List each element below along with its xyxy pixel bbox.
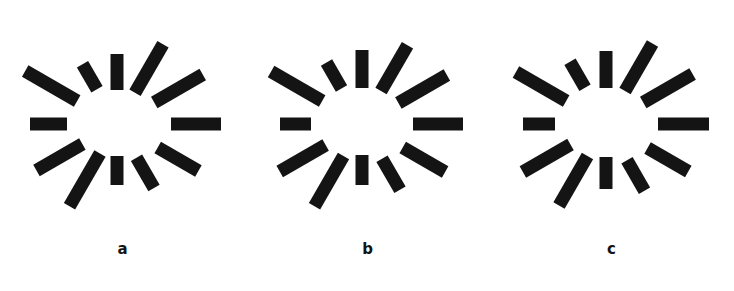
radial-bar <box>77 61 103 93</box>
radial-bars-c <box>489 0 734 245</box>
radial-bar <box>151 69 206 108</box>
radial-bars-b <box>245 0 490 245</box>
figure-panel-b: b <box>245 0 490 291</box>
radial-bar <box>564 58 590 90</box>
figure-caption-a: a <box>0 240 245 258</box>
radial-figures-sheet: abc <box>0 0 734 291</box>
radial-bar <box>600 51 613 88</box>
figure-caption-c: c <box>489 240 734 258</box>
radial-bar <box>111 156 124 185</box>
figure-panel-a: a <box>0 0 245 291</box>
figure-panel-c: c <box>489 0 734 291</box>
radial-bar <box>658 118 709 131</box>
radial-bar <box>64 150 106 209</box>
radial-bar <box>30 118 67 131</box>
radial-bar <box>513 66 570 106</box>
radial-bar <box>268 66 326 107</box>
radial-bars-a <box>0 0 245 245</box>
radial-bar <box>376 155 405 193</box>
radial-bar <box>644 142 691 177</box>
radial-bar <box>619 40 658 94</box>
radial-bar <box>520 139 574 178</box>
radial-bar <box>413 118 463 131</box>
figure-caption-b: b <box>245 240 490 258</box>
radial-bar <box>640 68 696 108</box>
radial-bar <box>111 54 124 90</box>
radial-bar <box>129 41 168 96</box>
radial-bar <box>399 142 448 178</box>
radial-bar <box>309 153 349 210</box>
radial-bar <box>171 118 221 131</box>
radial-bar <box>523 118 555 131</box>
radial-bar <box>375 42 413 94</box>
radial-bar <box>321 59 347 91</box>
radial-bar <box>356 155 369 185</box>
radial-bar <box>131 155 160 192</box>
radial-bar <box>22 65 80 106</box>
radial-bar <box>356 50 369 88</box>
radial-bar <box>553 153 593 209</box>
radial-bar <box>280 118 311 131</box>
radial-bar <box>276 139 328 177</box>
radial-bar <box>395 69 450 108</box>
radial-bar <box>33 138 85 176</box>
radial-bar <box>600 157 613 189</box>
radial-bar <box>621 157 650 194</box>
radial-bar <box>154 142 201 177</box>
